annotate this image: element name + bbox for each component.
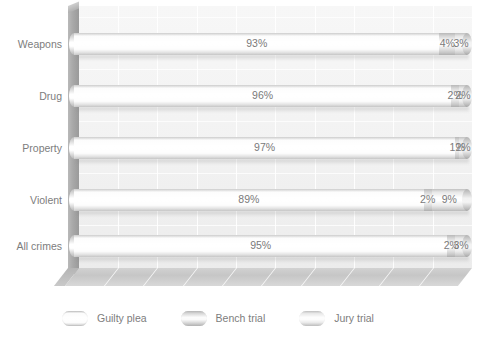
floor-gridline (143, 268, 158, 286)
guilty-plea-swatch (62, 311, 88, 326)
legend-label-bench-trial: Bench trial (216, 312, 266, 324)
value-label-jury-trial: 2% (447, 141, 479, 153)
value-label-guilty-plea: 97% (247, 141, 283, 153)
band-separator (79, 17, 472, 18)
bar-shadow (76, 159, 469, 165)
stacked-bar-chart: Weapons Drug Property Violent All crimes… (0, 0, 496, 343)
category-label-all-crimes: All crimes (0, 240, 62, 252)
legend-label-jury-trial: Jury trial (334, 312, 374, 324)
bar-shadow (76, 55, 469, 61)
floor-gridline (104, 268, 119, 286)
value-label-jury-trial: 9% (433, 193, 465, 205)
value-label-jury-trial: 3% (445, 239, 477, 251)
plot-floor (65, 268, 472, 286)
value-label-guilty-plea: 96% (245, 89, 281, 101)
floor-gridline (340, 268, 355, 286)
floor-gridline (222, 268, 237, 286)
floor-gridline (379, 268, 394, 286)
bar-shadow (76, 107, 469, 113)
bar-shadow (76, 211, 469, 217)
category-label-violent: Violent (0, 194, 62, 206)
bar-shadow (76, 257, 469, 263)
bench-trial-swatch (181, 311, 207, 326)
legend-item-jury-trial[interactable]: Jury trial (299, 311, 374, 326)
category-label-property: Property (0, 142, 62, 154)
stacked-bar[interactable] (74, 189, 467, 211)
value-label-guilty-plea: 95% (243, 239, 279, 251)
jury-trial-swatch (299, 311, 325, 326)
band-separator (79, 173, 472, 174)
band-separator (79, 225, 472, 226)
floor-gridline (183, 268, 198, 286)
chart-legend: Guilty plea Bench trial Jury trial (62, 305, 442, 331)
category-label-weapons: Weapons (0, 38, 62, 50)
value-label-guilty-plea: 93% (239, 37, 275, 49)
band-separator (79, 121, 472, 122)
value-label-guilty-plea: 89% (231, 193, 267, 205)
value-label-jury-trial: 3% (445, 37, 477, 49)
legend-item-guilty-plea[interactable]: Guilty plea (62, 311, 147, 326)
floor-gridline (261, 268, 276, 286)
floor-gridline (301, 268, 316, 286)
category-label-drug: Drug (0, 90, 62, 102)
legend-label-guilty-plea: Guilty plea (97, 312, 147, 324)
band-separator (79, 69, 472, 70)
value-label-jury-trial: 2% (447, 89, 479, 101)
floor-gridline (419, 268, 434, 286)
legend-item-bench-trial[interactable]: Bench trial (181, 311, 266, 326)
